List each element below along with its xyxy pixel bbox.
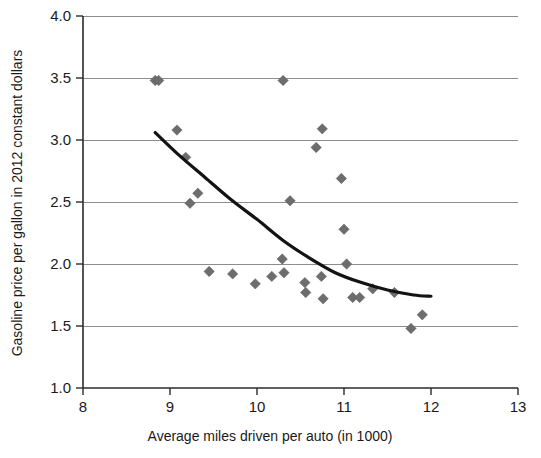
data-point-marker [336, 173, 346, 183]
data-point-marker [318, 294, 328, 304]
data-point-marker [316, 271, 326, 281]
data-point-marker [311, 142, 321, 152]
x-tick-label: 8 [79, 398, 87, 415]
data-point-marker [301, 287, 311, 297]
y-axis-tick-labels: 1.01.52.02.53.03.54.0 [50, 7, 71, 396]
y-tick-label: 1.5 [50, 317, 71, 334]
x-axis-title: Average miles driven per auto (in 1000) [148, 428, 393, 444]
data-point-marker [227, 269, 237, 279]
x-tick-label: 11 [336, 398, 352, 415]
x-axis-tick-labels: 8910111213 [79, 398, 527, 415]
y-tick-label: 3.5 [50, 69, 71, 86]
y-tick-label: 2.5 [50, 193, 71, 210]
data-point-marker [193, 188, 203, 198]
data-point-marker [317, 124, 327, 134]
data-point-marker [354, 292, 364, 302]
data-point-marker [250, 279, 260, 289]
y-tick-label: 4.0 [50, 7, 71, 24]
y-tick-label: 1.0 [50, 379, 71, 396]
data-point-marker [339, 224, 349, 234]
data-point-marker [300, 277, 310, 287]
data-point-marker [185, 198, 195, 208]
x-tick-label: 12 [423, 398, 440, 415]
x-tick-label: 9 [166, 398, 174, 415]
data-point-marker [277, 254, 287, 264]
data-point-markers [150, 75, 427, 333]
y-tick-label: 3.0 [50, 131, 71, 148]
y-axis-title: Gasoline price per gallon in 2012 consta… [9, 50, 25, 357]
data-point-marker [417, 310, 427, 320]
data-point-marker [285, 196, 295, 206]
data-point-marker [172, 125, 182, 135]
y-tick-label: 2.0 [50, 255, 71, 272]
data-point-marker [278, 75, 288, 85]
chart-canvas: 8910111213 1.01.52.02.53.03.54.0 Average… [0, 0, 541, 458]
data-point-marker [267, 271, 277, 281]
data-point-marker [406, 323, 416, 333]
x-axis-ticks [83, 388, 518, 395]
scatter-chart: 8910111213 1.01.52.02.53.03.54.0 Average… [0, 0, 541, 458]
grid-lines [83, 16, 518, 326]
trend-curve [155, 133, 431, 297]
data-point-marker [341, 259, 351, 269]
x-tick-label: 10 [249, 398, 266, 415]
x-tick-label: 13 [510, 398, 527, 415]
data-point-marker [279, 267, 289, 277]
data-point-marker [204, 266, 214, 276]
y-axis-ticks [76, 16, 83, 388]
